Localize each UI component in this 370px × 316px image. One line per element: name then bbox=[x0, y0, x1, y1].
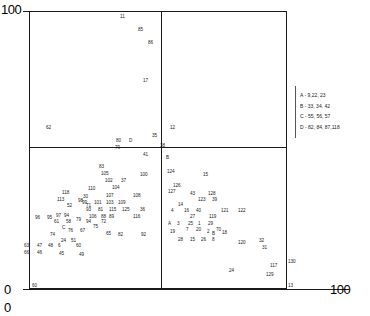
data-point-label: 116 bbox=[133, 214, 140, 219]
data-point-label: 94 bbox=[64, 213, 69, 218]
data-point-label: 36 bbox=[140, 207, 145, 212]
x-axis-min-label: 0 bbox=[4, 300, 11, 315]
data-point-label: 45 bbox=[59, 251, 64, 256]
data-point-label: 58 bbox=[66, 219, 71, 224]
data-point-label: 80 bbox=[116, 138, 121, 143]
data-point-label: 83 bbox=[99, 164, 104, 169]
data-point-label: 127 bbox=[168, 189, 176, 194]
data-point-label: 20 bbox=[196, 227, 201, 232]
quadrant-vertical-line bbox=[161, 11, 162, 289]
data-point-label: 79 bbox=[76, 217, 81, 222]
data-point-label: 14 bbox=[178, 202, 183, 207]
data-point-label: 16 bbox=[184, 208, 189, 213]
data-point-label: 2 bbox=[207, 229, 210, 234]
data-point-label: 46 bbox=[37, 250, 42, 255]
data-point-label: 118 bbox=[62, 190, 69, 195]
data-point-label: 39 bbox=[212, 197, 217, 202]
data-point-label: 62 bbox=[46, 125, 51, 130]
data-point-label: 31 bbox=[262, 245, 267, 250]
data-point-label: 8 bbox=[212, 237, 215, 242]
data-point-label: 74 bbox=[50, 232, 55, 237]
legend-divider bbox=[295, 86, 296, 138]
data-point-label: 26 bbox=[201, 237, 206, 242]
data-point-label: B bbox=[212, 231, 215, 236]
data-point-label: 17 bbox=[143, 78, 148, 83]
data-point-label: 48 bbox=[48, 243, 53, 248]
data-point-label: 123 bbox=[198, 197, 206, 202]
data-point-label: 94 bbox=[86, 219, 91, 224]
data-point-label: 4 bbox=[171, 208, 174, 213]
data-point-label: 104 bbox=[112, 185, 120, 190]
data-point-label: 122 bbox=[238, 208, 246, 213]
data-point-label: 24 bbox=[229, 268, 234, 273]
data-point-label: 130 bbox=[288, 259, 296, 264]
data-point-label: 95 bbox=[47, 215, 52, 220]
data-point-label: 49 bbox=[79, 252, 84, 257]
y-axis-max-label: 100 bbox=[1, 2, 21, 17]
legend: A - 9,22, 23B - 33, 34, 42C - 55, 56, 57… bbox=[300, 92, 340, 134]
data-point-label: 99 bbox=[82, 200, 87, 205]
x-axis-max-label: 100 bbox=[330, 282, 350, 297]
data-point-label: 107 bbox=[106, 193, 114, 198]
data-point-label: 27 bbox=[190, 214, 195, 219]
data-point-label: 65 bbox=[106, 231, 111, 236]
data-point-label: 3 bbox=[177, 221, 180, 226]
data-point-label: 61 bbox=[54, 219, 59, 224]
data-point-label: 103 bbox=[106, 200, 114, 205]
data-point-label: 119 bbox=[209, 214, 216, 219]
data-point-label: 120 bbox=[238, 240, 246, 245]
data-point-label: 13 bbox=[288, 283, 293, 288]
data-point-label: 67 bbox=[80, 228, 85, 233]
data-point-label: 19 bbox=[170, 229, 175, 234]
data-point-label: 24 bbox=[61, 238, 66, 243]
data-point-label: 129 bbox=[266, 272, 274, 277]
data-point-label: 128 bbox=[208, 191, 216, 196]
scatter-plot: 100 0 0 100 A - 9,22, 23B - 33, 34, 42C … bbox=[0, 0, 370, 316]
x-axis-baseline bbox=[29, 289, 349, 290]
data-point-label: 70 bbox=[216, 227, 221, 232]
legend-entry: B - 33, 34, 42 bbox=[300, 103, 340, 109]
data-point-label: 72 bbox=[101, 219, 106, 224]
data-point-label: 29 bbox=[208, 221, 213, 226]
data-point-label: 52 bbox=[67, 203, 72, 208]
data-point-label: 93 bbox=[86, 207, 91, 212]
plot-frame bbox=[29, 11, 287, 289]
data-point-label: 92 bbox=[141, 232, 146, 237]
data-point-label: B bbox=[166, 155, 169, 160]
data-point-label: 37 bbox=[121, 178, 126, 183]
data-point-label: 1 bbox=[198, 221, 201, 226]
data-point-label: 12 bbox=[170, 125, 175, 130]
data-point-label: 60 bbox=[76, 243, 81, 248]
data-point-label: 115 bbox=[109, 207, 116, 212]
data-point-label: 108 bbox=[133, 193, 141, 198]
data-point-label: 32 bbox=[259, 238, 264, 243]
data-point-label: C bbox=[62, 225, 65, 230]
data-point-label: 60 bbox=[32, 283, 37, 288]
data-point-label: 35 bbox=[152, 133, 157, 138]
data-point-label: 113 bbox=[57, 197, 64, 202]
data-point-label: 28 bbox=[178, 237, 183, 242]
legend-entry: C - 55, 56, 57 bbox=[300, 113, 340, 119]
data-point-label: 38 bbox=[160, 143, 165, 148]
data-point-label: 110 bbox=[88, 186, 95, 191]
data-point-label: 40 bbox=[196, 208, 201, 213]
data-point-label: 121 bbox=[221, 208, 229, 213]
data-point-label: 11 bbox=[120, 14, 125, 19]
data-point-label: 66 bbox=[24, 250, 29, 255]
data-point-label: 100 bbox=[140, 172, 148, 177]
data-point-label: 89 bbox=[109, 214, 114, 219]
data-point-label: 63 bbox=[24, 243, 29, 248]
y-axis-tick-top bbox=[23, 11, 30, 12]
data-point-label: 79 bbox=[115, 145, 120, 150]
data-point-label: 43 bbox=[190, 191, 195, 196]
legend-entry: A - 9,22, 23 bbox=[300, 92, 340, 98]
data-point-label: 47 bbox=[37, 243, 42, 248]
data-point-label: 126 bbox=[173, 183, 181, 188]
data-point-label: 15 bbox=[190, 237, 195, 242]
data-point-label: 97 bbox=[56, 213, 61, 218]
data-point-label: 81 bbox=[98, 207, 103, 212]
data-point-label: 18 bbox=[222, 230, 227, 235]
data-point-label: 41 bbox=[143, 152, 148, 157]
data-point-label: 105 bbox=[101, 171, 109, 176]
data-point-label: 75 bbox=[93, 224, 98, 229]
